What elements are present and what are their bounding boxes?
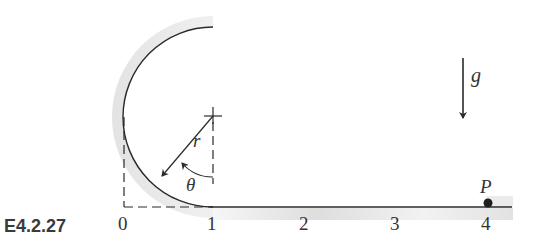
radius-label: r (193, 130, 201, 151)
gravity-label: g (471, 64, 481, 87)
theta-label: θ (186, 174, 195, 195)
loop-track-diagram: r θ g P 0 1 2 3 4 E4.2.27 (0, 0, 533, 242)
radius-arrow (162, 116, 213, 176)
tick-label-3: 3 (390, 213, 400, 234)
tick-label-1: 1 (207, 213, 217, 234)
center-cross-icon (204, 107, 222, 124)
point-p-label: P (479, 176, 492, 197)
loop-shading (112, 16, 213, 218)
tick-label-4: 4 (481, 213, 491, 234)
tick-label-2: 2 (299, 213, 309, 234)
point-p-marker (484, 199, 493, 208)
tick-label-0: 0 (118, 213, 128, 234)
figure-label: E4.2.27 (4, 216, 66, 236)
track-shading (213, 208, 513, 220)
